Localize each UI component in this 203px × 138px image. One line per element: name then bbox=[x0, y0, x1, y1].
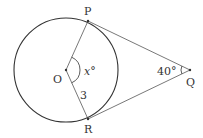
label-radius: 3 bbox=[80, 89, 87, 102]
angle-arc-o bbox=[72, 57, 80, 83]
point-p bbox=[87, 20, 89, 22]
label-angle-o: x° bbox=[84, 65, 96, 78]
label-angle-q: 40° bbox=[157, 65, 177, 78]
label-o: O bbox=[53, 73, 62, 86]
label-p: P bbox=[84, 5, 92, 18]
geometry-diagram: P R Q O x° 40° 3 bbox=[0, 0, 203, 138]
label-r: R bbox=[84, 123, 93, 136]
point-q bbox=[189, 69, 191, 71]
point-r bbox=[87, 118, 89, 120]
angle-arc-q bbox=[181, 66, 182, 74]
point-o bbox=[65, 69, 67, 71]
radius-op bbox=[66, 21, 88, 70]
label-q: Q bbox=[186, 76, 195, 89]
tangent-pq bbox=[88, 21, 190, 70]
